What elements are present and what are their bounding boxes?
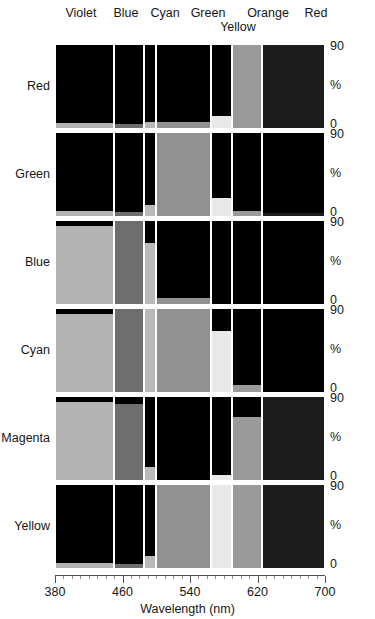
y-tick-90-blue: 90 [330, 215, 344, 229]
x-minor-tick [106, 576, 107, 579]
x-minor-tick [131, 576, 132, 579]
x-minor-tick [274, 576, 275, 579]
bar-green-blue [115, 212, 143, 216]
panel-magenta [55, 397, 325, 480]
x-minor-tick [173, 576, 174, 579]
x-minor-tick [266, 576, 267, 579]
y-tick-0-yellow: 0 [330, 557, 337, 571]
bar-magenta-red [263, 397, 324, 480]
bar-green-yellow [212, 198, 231, 216]
x-minor-tick [80, 576, 81, 579]
x-minor-tick [97, 576, 98, 579]
band-column-orange [233, 221, 261, 304]
x-tick-label-460: 460 [98, 585, 148, 599]
x-major-tick [190, 576, 191, 583]
x-axis-title: Wavelength (nm) [0, 602, 375, 616]
bar-cyan-orange [233, 385, 261, 392]
row-label-red: Red [0, 79, 50, 93]
bar-cyan-green [157, 309, 210, 392]
x-minor-tick [291, 576, 292, 579]
bar-cyan-cyan [145, 309, 156, 392]
bar-yellow-green [157, 485, 210, 568]
bar-green-orange [233, 211, 261, 216]
bar-yellow-violet [56, 563, 113, 568]
band-column-blue [115, 45, 143, 128]
panel-green [55, 133, 325, 216]
bar-yellow-yellow [212, 485, 231, 568]
y-axis-unit-cyan: % [330, 342, 341, 356]
x-tick-label-700: 700 [300, 585, 350, 599]
y-tick-90-magenta: 90 [330, 391, 344, 405]
bar-yellow-cyan [145, 556, 156, 568]
bar-magenta-blue [115, 404, 143, 480]
x-tick-label-380: 380 [30, 585, 80, 599]
y-tick-90-red: 90 [330, 39, 344, 53]
x-minor-tick [165, 576, 166, 579]
x-major-tick [258, 576, 259, 583]
bar-magenta-violet [56, 402, 113, 480]
band-column-red [263, 133, 324, 216]
bar-blue-violet [56, 226, 113, 304]
x-tick-label-620: 620 [233, 585, 283, 599]
x-minor-tick [308, 576, 309, 579]
bar-cyan-yellow [212, 331, 231, 392]
band-label-green: Green [183, 6, 233, 20]
panel-blue [55, 221, 325, 304]
bar-blue-green [157, 298, 210, 304]
band-column-orange [233, 133, 261, 216]
band-label-orange: Orange [240, 6, 296, 20]
band-column-yellow [212, 397, 231, 480]
y-tick-90-cyan: 90 [330, 303, 344, 317]
y-tick-90-green: 90 [330, 127, 344, 141]
x-minor-tick [224, 576, 225, 579]
bar-red-red [263, 45, 324, 128]
x-major-tick [55, 576, 56, 583]
bar-yellow-blue [115, 564, 143, 568]
bar-yellow-orange [233, 485, 261, 568]
x-minor-tick [249, 576, 250, 579]
bar-red-green [157, 122, 210, 128]
x-minor-tick [114, 576, 115, 579]
bar-cyan-violet [56, 314, 113, 392]
bar-red-yellow [212, 116, 231, 128]
x-major-tick [123, 576, 124, 583]
band-column-violet [56, 485, 113, 568]
x-minor-tick [300, 576, 301, 579]
bar-yellow-red [263, 485, 324, 568]
x-minor-tick [182, 576, 183, 579]
y-axis-unit-blue: % [330, 254, 341, 268]
bar-blue-blue [115, 221, 143, 304]
x-minor-tick [89, 576, 90, 579]
band-column-red [263, 221, 324, 304]
bar-green-violet [56, 211, 113, 216]
bar-red-cyan [145, 122, 156, 128]
bar-blue-cyan [145, 243, 156, 304]
band-column-red [263, 309, 324, 392]
x-minor-tick [207, 576, 208, 579]
y-axis-unit-yellow: % [330, 518, 341, 532]
x-minor-tick [317, 576, 318, 579]
band-column-cyan [145, 133, 156, 216]
band-label-yellow: Yellow [212, 20, 264, 34]
row-label-green: Green [0, 167, 50, 181]
x-minor-tick [63, 576, 64, 579]
bar-green-cyan [145, 205, 156, 216]
x-minor-tick [148, 576, 149, 579]
bar-red-blue [115, 124, 143, 128]
band-column-green [157, 221, 210, 304]
x-minor-tick [198, 576, 199, 579]
bar-green-green [157, 133, 210, 216]
band-column-cyan [145, 45, 156, 128]
band-column-violet [56, 45, 113, 128]
panel-cyan [55, 309, 325, 392]
band-column-green [157, 45, 210, 128]
band-column-yellow [212, 221, 231, 304]
bar-cyan-blue [115, 309, 143, 392]
band-column-orange [233, 309, 261, 392]
x-major-tick [325, 576, 326, 583]
x-minor-tick [232, 576, 233, 579]
y-axis-unit-magenta: % [330, 430, 341, 444]
bar-magenta-orange [233, 417, 261, 480]
x-minor-tick [156, 576, 157, 579]
x-minor-tick [241, 576, 242, 579]
